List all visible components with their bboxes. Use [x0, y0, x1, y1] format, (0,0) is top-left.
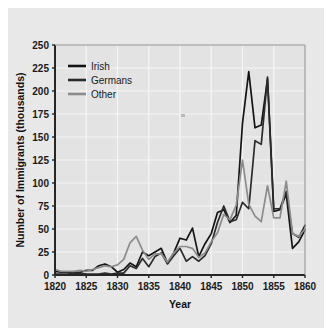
- y-tick-label: 50: [38, 224, 50, 235]
- x-tick-label: 1845: [200, 281, 223, 292]
- y-tick-label: 175: [32, 109, 49, 120]
- y-tick-label: 75: [38, 201, 50, 212]
- immigration-line-chart: 0255075100125150175200225250182018251830…: [0, 0, 332, 336]
- y-tick-label: 200: [32, 86, 49, 97]
- x-tick-label: 1825: [75, 281, 98, 292]
- y-tick-label: 150: [32, 132, 49, 143]
- y-tick-label: 0: [43, 270, 49, 281]
- y-tick-label: 125: [32, 155, 49, 166]
- x-axis-title: Year: [169, 298, 191, 310]
- y-axis-title: Number of Immigrants (thousands): [14, 72, 26, 247]
- y-tick-label: 25: [38, 247, 50, 258]
- legend-label-irish: Irish: [91, 61, 110, 72]
- x-tick-label: 1830: [106, 281, 129, 292]
- x-tick-label: 1820: [44, 281, 67, 292]
- x-tick-label: 1835: [138, 281, 161, 292]
- y-tick-label: 225: [32, 63, 49, 74]
- x-tick-label: 1855: [263, 281, 286, 292]
- x-tick-label: 1840: [169, 281, 192, 292]
- x-tick-label: 1860: [294, 281, 317, 292]
- legend-label-other: Other: [91, 89, 117, 100]
- y-tick-label: 100: [32, 178, 49, 189]
- legend-label-germans: Germans: [91, 75, 132, 86]
- y-tick-label: 250: [32, 40, 49, 51]
- screenshot-root: 0255075100125150175200225250182018251830…: [0, 0, 332, 336]
- scan-artifact-speck: [181, 114, 185, 117]
- x-tick-label: 1850: [231, 281, 254, 292]
